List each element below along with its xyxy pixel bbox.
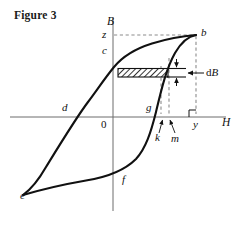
point-label-c: c [102, 45, 107, 56]
x-axis-label: H [222, 117, 230, 129]
point-label-y: y [193, 119, 198, 130]
lower-branch-curve [23, 35, 196, 195]
hatched-dB-strip [118, 69, 168, 78]
point-label-m: m [171, 133, 179, 144]
y-axis-label: B [107, 16, 114, 28]
figure-container: Figure 3 [0, 0, 236, 227]
point-label-k: k [155, 132, 160, 143]
upper-branch-curve [23, 35, 196, 195]
dB-label: dB [206, 67, 218, 78]
point-label-b: b [201, 27, 207, 38]
point-label-z: z [102, 29, 106, 40]
point-label-e: e [20, 190, 25, 201]
point-label-f: f [122, 174, 125, 185]
right-angle-marker-icon [189, 110, 196, 117]
origin-label: 0 [101, 119, 107, 130]
point-label-g: g [146, 102, 152, 113]
point-label-d: d [62, 102, 68, 113]
dB-variable: B [212, 66, 219, 78]
